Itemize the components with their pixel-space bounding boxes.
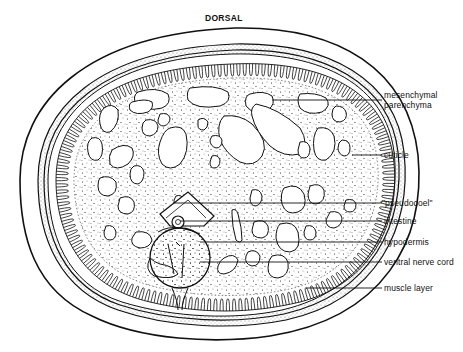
label-mesenchymal-line2: parenchyma <box>384 100 438 110</box>
label-hypodermis: hypodermis <box>384 237 429 247</box>
label-mesenchymal-parenchyma: mesenchymal parenchyma <box>384 90 438 110</box>
label-muscle-layer: muscle layer <box>384 283 433 293</box>
label-pseudocoel: "pseudocoel" <box>382 198 433 208</box>
label-intestine: intestine <box>384 216 417 226</box>
ventral-nerve-cord-shape <box>150 228 210 288</box>
label-cuticle: cuticle <box>384 150 409 160</box>
figure-title: DORSAL <box>205 13 243 23</box>
intestine-lumen <box>172 216 184 228</box>
label-ventral-nerve-cord: ventral nerve cord <box>384 257 454 267</box>
label-mesenchymal-line1: mesenchymal <box>384 90 438 100</box>
cross-section-diagram <box>0 0 463 352</box>
